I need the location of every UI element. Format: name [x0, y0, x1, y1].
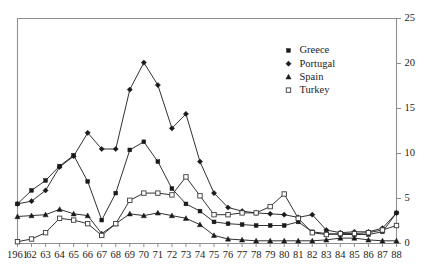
data-point-marker [155, 83, 160, 88]
legend-item-greece[interactable]: Greece [287, 44, 330, 55]
data-point-marker [15, 240, 19, 244]
data-point-marker [29, 237, 33, 241]
x-axis-tick-label: 65 [68, 249, 79, 260]
data-point-marker [338, 231, 342, 235]
line-chart: 1961626364656667686970717273747576777879… [0, 0, 432, 275]
plot-frame [18, 19, 397, 244]
legend-item-portugal[interactable]: Portugal [286, 58, 335, 69]
legend-label: Portugal [300, 58, 336, 69]
x-axis-tick-label: 85 [349, 249, 360, 260]
data-point-marker [240, 211, 244, 215]
legend-item-turkey[interactable]: Turkey [286, 84, 330, 95]
data-point-marker [127, 87, 132, 92]
data-point-marker [296, 216, 300, 220]
data-point-marker [156, 191, 160, 195]
data-point-marker [366, 231, 370, 235]
x-axis-tick-label: 87 [377, 249, 388, 260]
legend-label: Spain [300, 71, 325, 82]
chart-legend: GreecePortugalSpainTurkey [286, 44, 335, 95]
data-point-marker [170, 187, 174, 191]
data-point-marker [142, 140, 146, 144]
data-point-marker [184, 175, 188, 179]
x-axis-tick-label: 76 [223, 249, 234, 260]
x-axis-tick-label: 71 [153, 249, 164, 260]
data-point-marker [198, 209, 202, 213]
data-point-marker [254, 211, 258, 215]
data-point-marker [71, 218, 75, 222]
data-point-marker [128, 148, 132, 152]
series-spain [15, 207, 399, 243]
data-point-marker [282, 224, 286, 228]
y-axis-tick-label: 15 [405, 102, 416, 113]
data-point-marker [240, 223, 244, 227]
data-point-marker [226, 213, 230, 217]
data-point-marker [100, 233, 104, 237]
data-point-marker [141, 60, 146, 65]
data-point-marker [44, 179, 48, 183]
x-axis-tick-label: 80 [279, 249, 290, 260]
y-axis-tick-label: 25 [405, 12, 416, 23]
data-point-marker [282, 212, 287, 217]
x-axis-tick-label: 66 [82, 249, 93, 260]
x-axis-tick-label: 82 [307, 249, 318, 260]
data-point-marker [197, 222, 202, 227]
series-layer [15, 60, 399, 244]
x-axis-tick-label: 72 [167, 249, 178, 260]
y-axis-tick-label: 20 [405, 57, 416, 68]
x-axis-tick-label: 78 [251, 249, 262, 260]
data-point-marker [155, 210, 160, 215]
data-point-marker [57, 207, 62, 212]
series-line [18, 63, 397, 233]
data-point-marker [197, 159, 202, 164]
x-axis-tick-label: 77 [237, 249, 248, 260]
data-point-marker [127, 211, 132, 216]
y-axis-tick-label: 5 [405, 192, 410, 203]
data-point-marker [212, 213, 216, 217]
legend-marker-filled-diamond [286, 61, 291, 66]
data-point-marker [226, 222, 230, 226]
x-axis-tick-label: 70 [139, 249, 150, 260]
y-axis-ticks [397, 19, 402, 244]
x-axis-labels: 1961626364656667686970717273747576777879… [7, 249, 402, 260]
x-axis-tick-label: 83 [321, 249, 332, 260]
data-point-marker [268, 211, 273, 216]
data-point-marker [324, 232, 328, 236]
x-axis-tick-label: 64 [54, 249, 65, 260]
legend-item-spain[interactable]: Spain [286, 71, 324, 82]
x-axis-tick-label: 75 [209, 249, 220, 260]
data-point-marker [170, 193, 174, 197]
data-point-marker [352, 231, 356, 235]
data-point-marker [57, 216, 61, 220]
legend-marker-filled-triangle [286, 74, 291, 79]
data-point-marker [268, 204, 272, 208]
data-point-marker [156, 160, 160, 164]
x-axis-tick-label: 62 [26, 249, 37, 260]
x-axis-tick-label: 74 [195, 249, 206, 260]
y-axis-tick-label: 0 [405, 237, 410, 248]
legend-marker-open-square [286, 88, 290, 92]
series-turkey [15, 175, 398, 244]
legend-label: Greece [300, 44, 330, 55]
data-point-marker [282, 192, 286, 196]
data-point-marker [100, 218, 104, 222]
data-point-marker [198, 194, 202, 198]
data-point-marker [114, 191, 118, 195]
y-axis-tick-label: 10 [405, 147, 416, 158]
data-point-marker [43, 231, 47, 235]
chart-canvas: 1961626364656667686970717273747576777879… [0, 0, 432, 275]
data-point-marker [184, 202, 188, 206]
data-point-marker [85, 222, 89, 226]
x-axis-tick-label: 73 [181, 249, 192, 260]
series-portugal [15, 60, 399, 235]
data-point-marker [30, 189, 34, 193]
data-point-marker [380, 228, 384, 232]
x-axis-tick-label: 63 [40, 249, 51, 260]
data-point-marker [128, 198, 132, 202]
data-point-marker [268, 224, 272, 228]
x-axis-tick-label: 81 [293, 249, 304, 260]
data-point-marker [212, 220, 216, 224]
legend-marker-filled-square [287, 49, 291, 53]
x-axis-tick-label: 79 [265, 249, 276, 260]
y-axis-labels: 0510152025 [405, 12, 416, 248]
data-point-marker [254, 224, 258, 228]
